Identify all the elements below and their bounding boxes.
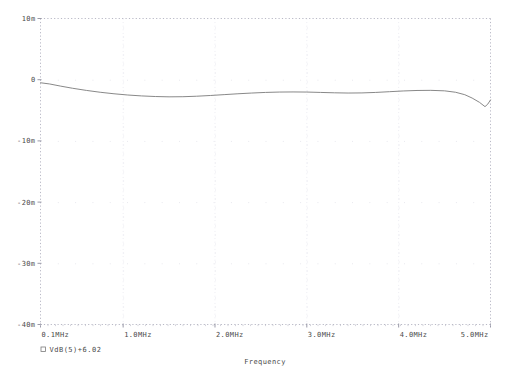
grid-dot <box>162 80 163 81</box>
grid-dot <box>215 100 216 101</box>
x-tick-label: 1.0MHz <box>124 331 152 339</box>
grid-dot <box>123 145 124 146</box>
grid-dot <box>144 80 145 81</box>
grid-dot <box>473 141 474 142</box>
x-tick-label: 4.0MHz <box>400 331 428 339</box>
grid-dot <box>123 100 124 101</box>
grid-dot <box>215 73 216 74</box>
grid-dot <box>231 202 232 203</box>
y-tick-label: -30m <box>17 260 35 268</box>
y-axis-tick-labels: 10m0-10m-20m-30m-40m <box>17 15 35 329</box>
grid-dot <box>179 202 180 203</box>
grid-dot <box>399 73 400 74</box>
grid-dot <box>162 202 163 203</box>
grid-dot <box>399 163 400 164</box>
data-trace-layer <box>41 83 491 107</box>
grid-dot <box>283 141 284 142</box>
grid-dot <box>399 181 400 182</box>
grid-dot <box>123 271 124 272</box>
grid-dot <box>317 141 318 142</box>
grid-dot <box>456 202 457 203</box>
grid-dot <box>404 141 405 142</box>
grid-dot <box>387 141 388 142</box>
legend-entry-label: VdB(5)+6.02 <box>50 346 102 354</box>
grid-dot <box>123 199 124 200</box>
grid-dot <box>123 109 124 110</box>
grid-dot <box>110 141 111 142</box>
grid-dot <box>144 202 145 203</box>
grid-dot <box>215 28 216 29</box>
grid-dot <box>127 80 128 81</box>
grid-dot <box>123 118 124 119</box>
grid-dot <box>399 136 400 137</box>
grid-dot <box>300 80 301 81</box>
grid-dot <box>58 202 59 203</box>
grid-dot <box>399 127 400 128</box>
grid-dot <box>399 145 400 146</box>
grid-dot <box>215 55 216 56</box>
grid-dot <box>123 253 124 254</box>
grid-dot <box>307 217 308 218</box>
grid-dot <box>231 263 232 264</box>
grid-dot <box>399 307 400 308</box>
grid-dot <box>123 28 124 29</box>
grid-dot <box>215 316 216 317</box>
grid-dot <box>307 316 308 317</box>
grid-dot <box>352 263 353 264</box>
grid-dot <box>300 202 301 203</box>
grid-dot <box>123 298 124 299</box>
grid-dot <box>58 263 59 264</box>
grid-dot <box>404 202 405 203</box>
grid-dot <box>456 141 457 142</box>
grid-dot <box>307 28 308 29</box>
grid-dot <box>215 289 216 290</box>
grid-dot <box>215 91 216 92</box>
grid-dot <box>307 91 308 92</box>
grid-dot <box>248 202 249 203</box>
grid-dot <box>307 181 308 182</box>
grid-dot <box>215 145 216 146</box>
grid-dot <box>399 55 400 56</box>
grid-dot <box>369 202 370 203</box>
grid-dot <box>127 202 128 203</box>
grid-dot <box>75 80 76 81</box>
grid-dot <box>123 37 124 38</box>
grid-dot <box>215 307 216 308</box>
grid-dot <box>215 118 216 119</box>
grid-dot <box>473 263 474 264</box>
y-tick-label: 0 <box>31 76 36 84</box>
grid-dot <box>456 263 457 264</box>
grid-dot <box>215 181 216 182</box>
grid-dot <box>215 82 216 83</box>
grid-dot <box>266 141 267 142</box>
grid-dot <box>123 307 124 308</box>
grid-dot <box>215 253 216 254</box>
grid-dot <box>215 37 216 38</box>
grid-dot <box>399 64 400 65</box>
grid-dot <box>127 141 128 142</box>
grid-dot <box>307 262 308 263</box>
plot-frame <box>41 19 491 325</box>
grid-dot <box>369 141 370 142</box>
grid-dot <box>307 172 308 173</box>
grid-dot <box>215 127 216 128</box>
grid-dot <box>123 55 124 56</box>
grid-layer <box>58 19 474 325</box>
grid-dot <box>127 263 128 264</box>
grid-dot <box>215 235 216 236</box>
grid-dot <box>404 263 405 264</box>
grid-dot <box>215 208 216 209</box>
grid-dot <box>307 136 308 137</box>
grid-dot <box>123 190 124 191</box>
grid-dot <box>75 141 76 142</box>
grid-dot <box>307 55 308 56</box>
grid-dot <box>215 244 216 245</box>
grid-dot <box>317 263 318 264</box>
grid-dot <box>92 80 93 81</box>
grid-dot <box>439 141 440 142</box>
grid-dot <box>399 28 400 29</box>
plot-canvas: 10m0-10m-20m-30m-40m 0.1MHz1.0MHz2.0MHz3… <box>0 0 513 375</box>
grid-dot <box>399 226 400 227</box>
grid-dot <box>123 64 124 65</box>
grid-dot <box>473 80 474 81</box>
